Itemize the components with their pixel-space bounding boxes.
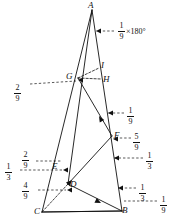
ratio-label-4-9-left-D: 49 bbox=[22, 182, 29, 201]
cevian-C-B-low bbox=[42, 211, 122, 212]
ratio-label-1-3-right-mid-numerator: 1 bbox=[147, 152, 153, 160]
ratio-label-1-9-times-180-denominator: 9 bbox=[119, 33, 125, 41]
vertex-label-H: H bbox=[103, 75, 110, 84]
ratio-label-4-9-left-D-numerator: 4 bbox=[23, 182, 29, 190]
ratio-label-1-3-right-mid-denominator: 3 bbox=[147, 163, 153, 171]
cevian-F-D bbox=[68, 136, 112, 184]
arrow-AB-mid bbox=[108, 110, 113, 115]
vertex-label-B: B bbox=[122, 206, 128, 215]
ratio-label-1-9-times-180: 19×180° bbox=[118, 22, 146, 41]
ratio-label-1-3-left-E-denominator: 3 bbox=[6, 174, 12, 182]
ratio-label-1-3-right-mid: 13 bbox=[146, 152, 153, 171]
ratio-label-5-9-right-F-fraction: 59 bbox=[133, 133, 140, 152]
ratio-label-1-9-right-B: 19 bbox=[160, 196, 167, 215]
ratio-label-4-9-left-D-denominator: 9 bbox=[23, 193, 29, 201]
leader-lines-group bbox=[20, 31, 157, 201]
ratio-label-1-9-right-upper-denominator: 9 bbox=[128, 118, 134, 126]
ratio-label-1-9-right-upper-numerator: 1 bbox=[128, 107, 134, 115]
ratio-label-1-3-left-E-fraction: 13 bbox=[5, 163, 12, 182]
ratio-label-2-9-left-E-numerator: 2 bbox=[23, 151, 29, 159]
ratio-label-2-9-left-G: 29 bbox=[14, 84, 21, 103]
vertex-label-I: I bbox=[101, 61, 104, 70]
ratio-label-1-9-times-180-suffix: ×180° bbox=[126, 28, 146, 36]
ratio-label-1-9-right-B-fraction: 19 bbox=[160, 196, 167, 215]
vertex-label-C: C bbox=[34, 207, 40, 216]
ratio-label-2-9-left-G-fraction: 29 bbox=[14, 84, 21, 103]
ratio-label-1-3-right-B-fraction: 13 bbox=[139, 184, 146, 203]
ratio-label-2-9-left-E: 29 bbox=[22, 151, 29, 170]
ratio-label-5-9-right-F-numerator: 5 bbox=[134, 133, 140, 141]
ratio-label-2-9-left-G-numerator: 2 bbox=[15, 84, 21, 92]
ratio-label-5-9-right-F: 59 bbox=[133, 133, 140, 152]
ratio-label-2-9-left-E-denominator: 9 bbox=[23, 162, 29, 170]
ratio-label-1-9-times-180-fraction: 19 bbox=[118, 22, 125, 41]
arrow-E bbox=[63, 167, 68, 172]
ratio-label-1-3-right-mid-fraction: 13 bbox=[146, 152, 153, 171]
geometry-figure: AIGHFEDCB 19×180°291959132913491319 bbox=[0, 0, 176, 221]
vertex-label-A: A bbox=[88, 1, 94, 10]
ratio-label-1-3-right-B: 13 bbox=[139, 184, 146, 203]
ratio-label-1-9-right-upper: 19 bbox=[127, 107, 134, 126]
ratio-label-4-9-left-D-fraction: 49 bbox=[22, 182, 29, 201]
ratio-label-5-9-right-F-denominator: 9 bbox=[134, 144, 140, 152]
ratio-label-1-9-right-upper-fraction: 19 bbox=[127, 107, 134, 126]
leader-2-9-G bbox=[30, 81, 76, 84]
ratio-label-1-9-right-B-numerator: 1 bbox=[161, 196, 167, 204]
vertex-label-G: G bbox=[66, 72, 73, 81]
dash-G-I bbox=[78, 68, 99, 78]
side-A-C bbox=[42, 10, 92, 212]
cevian-A-D bbox=[68, 10, 92, 184]
arrow-AB-upper bbox=[96, 28, 101, 33]
ratio-label-1-3-left-E-numerator: 1 bbox=[6, 163, 12, 171]
ratio-label-2-9-left-E-fraction: 29 bbox=[22, 151, 29, 170]
ratio-label-1-9-right-B-denominator: 9 bbox=[161, 207, 167, 215]
ratio-label-2-9-left-G-denominator: 9 bbox=[15, 95, 21, 103]
ratio-label-1-3-right-B-numerator: 1 bbox=[140, 184, 146, 192]
vertex-label-E: E bbox=[52, 162, 58, 171]
ratio-label-1-9-times-180-numerator: 1 bbox=[119, 22, 125, 30]
vertex-label-D: D bbox=[70, 180, 77, 189]
ratio-label-1-3-left-E: 13 bbox=[5, 163, 12, 182]
solid-segments-group bbox=[42, 10, 122, 212]
arrow-markers-group bbox=[63, 28, 123, 192]
vertex-label-F: F bbox=[114, 131, 120, 140]
ratio-label-1-3-right-B-denominator: 3 bbox=[140, 195, 146, 203]
